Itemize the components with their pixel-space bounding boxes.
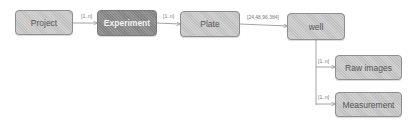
node-plate[interactable]: Plate (180, 11, 240, 37)
node-experiment[interactable]: Experiment (97, 10, 157, 36)
edge-experiment-plate (157, 23, 180, 24)
node-project-label: Project (31, 18, 57, 28)
edge-label-well-raw-images: [1..n] (318, 58, 329, 64)
node-plate-label: Plate (200, 19, 219, 29)
node-project[interactable]: Project (15, 10, 73, 35)
edge-label-well-measurement: [1..n] (318, 94, 329, 100)
node-raw-images[interactable]: Raw images (335, 55, 402, 80)
node-well[interactable]: well (287, 13, 345, 40)
node-well-label: well (309, 22, 324, 32)
node-measurement-label: Measurement (343, 100, 395, 110)
node-experiment-label: Experiment (104, 18, 150, 28)
node-raw-images-label: Raw images (345, 63, 392, 73)
edge-label-experiment-plate: [1..n] (163, 13, 174, 19)
edge-label-project-experiment: [1..n] (81, 13, 92, 19)
edge-label-plate-well: [24,48,96,384] (247, 14, 279, 20)
edge-plate-well (240, 24, 287, 26)
node-measurement[interactable]: Measurement (335, 92, 402, 117)
